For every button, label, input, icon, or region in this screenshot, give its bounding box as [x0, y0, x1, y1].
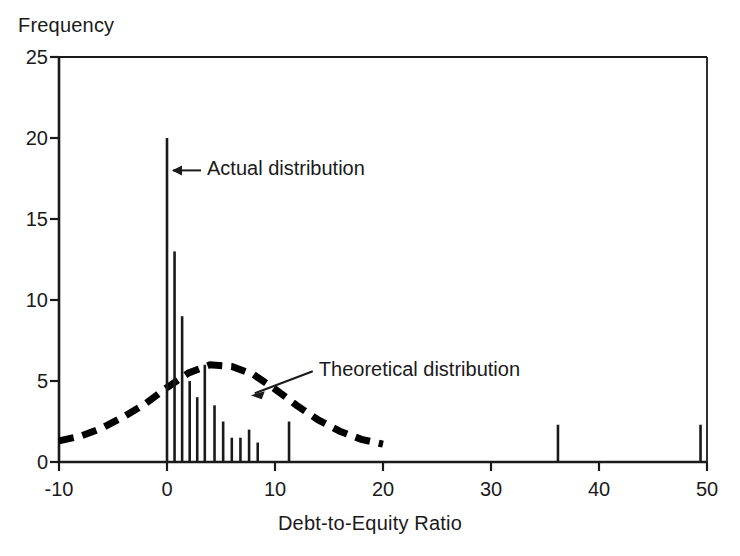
x-tick-label-20: 20: [348, 478, 418, 501]
annotation-theoretical-distribution: Theoretical distribution: [319, 358, 520, 381]
x-tick-label-40: 40: [564, 478, 634, 501]
y-tick-label-10: 10: [2, 289, 48, 312]
y-tick-label-15: 15: [2, 208, 48, 231]
x-tick-label-30: 30: [456, 478, 526, 501]
x-tick-label--10: -10: [24, 478, 94, 501]
y-axis-title: Frequency: [18, 14, 114, 37]
annotation-actual-distribution: Actual distribution: [207, 157, 365, 180]
y-tick-label-5: 5: [2, 370, 48, 393]
y-tick-label-25: 25: [2, 46, 48, 69]
x-tick-label-0: 0: [132, 478, 202, 501]
y-tick-label-20: 20: [2, 127, 48, 150]
chart-figure: 0510152025-1001020304050Actual distribut…: [0, 0, 740, 556]
x-tick-label-50: 50: [672, 478, 740, 501]
chart-canvas: [0, 0, 740, 556]
y-tick-label-0: 0: [2, 451, 48, 474]
plot-axes: [59, 57, 707, 462]
actual-distribution-arrowhead: [172, 165, 182, 175]
x-tick-label-10: 10: [240, 478, 310, 501]
x-axis-title: Debt-to-Equity Ratio: [0, 512, 740, 535]
